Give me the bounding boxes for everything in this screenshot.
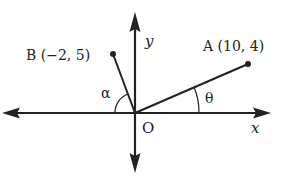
angle-theta-label: θ xyxy=(205,90,213,106)
angle-theta-arc xyxy=(194,87,199,113)
point-A xyxy=(245,61,251,67)
point-B-label: B (−2, 5) xyxy=(26,47,90,63)
angle-alpha-arc xyxy=(115,94,128,113)
coordinate-diagram: A (10, 4) B (−2, 5) y x O θ α xyxy=(0,0,291,177)
point-B xyxy=(110,51,116,57)
y-axis-down-arrow-icon xyxy=(130,153,141,173)
segment-OA xyxy=(135,64,248,113)
x-axis-label: x xyxy=(251,119,260,137)
y-axis-up-arrow-icon xyxy=(130,12,141,32)
y-axis xyxy=(130,12,141,173)
y-axis-label: y xyxy=(144,32,154,50)
point-A-label: A (10, 4) xyxy=(202,38,264,54)
angle-alpha-label: α xyxy=(101,85,111,101)
origin-label: O xyxy=(142,119,154,137)
